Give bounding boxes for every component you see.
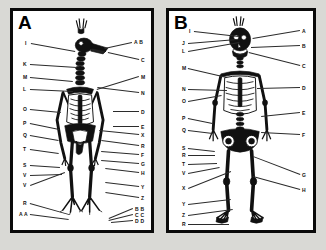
leader-line-1-left-0 (194, 31, 239, 37)
label-1-left-14: Z (182, 213, 185, 218)
label-1-left-11: V (182, 171, 186, 176)
leader-line-0-left-5 (30, 123, 59, 130)
leader-line-0-right-1 (108, 52, 139, 60)
label-0-right-15: D D (135, 219, 144, 224)
leader-line-1-right-0 (253, 30, 300, 39)
label-1-left-4: N (182, 87, 186, 92)
leader-line-1-left-7 (188, 130, 213, 134)
label-0-right-5: E (141, 125, 145, 130)
leader-line-0-left-4 (30, 109, 61, 113)
leader-line-1-right-6 (253, 156, 300, 175)
label-0-right-1: C (141, 58, 145, 63)
label-0-left-6: Q (23, 133, 27, 138)
label-0-left-8: S (23, 163, 27, 168)
label-0-left-2: M (23, 75, 27, 80)
label-0-right-11: Y (141, 185, 145, 190)
label-0-right-6: X (141, 133, 145, 138)
leader-line-1-right-4 (261, 112, 300, 117)
label-1-right-7: H (302, 188, 306, 193)
leader-line-1-right-5 (261, 132, 300, 135)
leader-line-1-left-13 (188, 199, 231, 205)
leader-line-0-right-3 (97, 87, 139, 93)
leader-line-1-left-2 (188, 42, 239, 52)
label-0-right-0: A B (134, 40, 143, 45)
panel-a-letter: A (18, 13, 31, 32)
leader-line-0-right-8 (101, 151, 139, 155)
leader-line-1-right-1 (251, 45, 300, 48)
leader-line-1-right-3 (257, 87, 300, 89)
label-1-left-15: R (182, 222, 186, 227)
label-1-left-8: S (182, 146, 186, 151)
leader-line-0-right-9 (101, 160, 139, 164)
leader-line-1-left-3 (188, 68, 227, 78)
leader-line-1-left-9 (188, 155, 215, 156)
leader-line-0-right-6 (99, 130, 139, 135)
label-1-left-12: X (182, 186, 186, 191)
label-1-left-2: L (182, 49, 185, 54)
leader-line-0-left-3 (30, 89, 73, 92)
label-1-left-10: T (182, 162, 185, 167)
label-1-right-6: G (302, 173, 306, 178)
label-1-left-3: M (182, 66, 186, 71)
label-0-left-11: R (23, 201, 27, 206)
label-0-left-9: V (23, 173, 27, 178)
anatomy-comparison-figure: A (0, 0, 326, 250)
leader-line-1-left-4 (188, 89, 227, 91)
label-0-right-3: N (141, 91, 145, 96)
label-0-left-3: L (23, 87, 26, 92)
leader-line-0-right-4 (113, 111, 139, 112)
leader-line-1-right-7 (253, 176, 300, 190)
label-0-right-7: R (141, 144, 145, 149)
label-0-left-5: P (23, 121, 27, 126)
label-0-left-0: I (25, 41, 27, 46)
panel-b-letter: B (174, 13, 187, 32)
leader-line-1-left-11 (188, 167, 219, 174)
leader-line-0-left-7 (30, 149, 59, 154)
leader-line-1-left-12 (188, 171, 231, 189)
leader-line-0-left-1 (30, 64, 77, 68)
leader-line-1-left-14 (188, 209, 233, 216)
label-1-left-0: I (189, 29, 191, 34)
leader-line-0-right-15 (111, 220, 133, 223)
leader-line-1-left-6 (188, 118, 213, 124)
label-1-left-9: R (182, 153, 186, 158)
label-0-right-2: M (141, 75, 145, 80)
label-0-right-8: F (141, 153, 144, 158)
label-0-right-9: G (141, 162, 145, 167)
leader-line-0-left-11 (30, 203, 69, 215)
label-0-right-10: H (141, 171, 145, 176)
label-1-right-0: A (302, 29, 306, 34)
label-1-left-5: O (182, 99, 186, 104)
leader-line-0-right-10 (105, 168, 139, 173)
leader-line-1-right-2 (249, 52, 300, 66)
panel-b: B (166, 8, 316, 233)
leader-line-0-left-0 (31, 43, 75, 52)
label-1-right-5: F (302, 133, 305, 138)
label-0-left-10: V (23, 183, 27, 188)
leader-line-0-left-8 (30, 165, 60, 168)
leader-line-1-left-5 (188, 95, 221, 102)
label-0-left-4: O (23, 107, 27, 112)
leader-line-0-right-12 (105, 192, 139, 198)
label-1-right-2: C (302, 64, 306, 69)
label-1-left-7: Q (182, 128, 186, 133)
leader-line-0-right-5 (113, 126, 139, 127)
leader-line-0-left-2 (30, 77, 73, 82)
leader-line-0-right-7 (101, 140, 139, 146)
leader-line-0-left-12 (30, 214, 69, 220)
leader-line-0-right-11 (105, 182, 139, 187)
label-1-left-6: P (182, 116, 186, 121)
leader-line-0-right-0 (105, 42, 132, 49)
human-skeleton-illustration (169, 11, 313, 230)
label-0-right-4: D (141, 110, 145, 115)
label-0-left-12: A A (19, 212, 28, 217)
label-1-right-1: B (302, 44, 306, 49)
leader-line-1-left-8 (188, 148, 215, 152)
panel-a: A (10, 8, 154, 233)
label-0-left-7: T (23, 147, 26, 152)
label-1-right-4: E (302, 111, 306, 116)
label-0-left-1: K (23, 62, 27, 67)
leader-line-1-left-15 (188, 224, 229, 225)
label-0-right-12: Z (141, 196, 144, 201)
label-1-left-1: J (182, 41, 185, 46)
